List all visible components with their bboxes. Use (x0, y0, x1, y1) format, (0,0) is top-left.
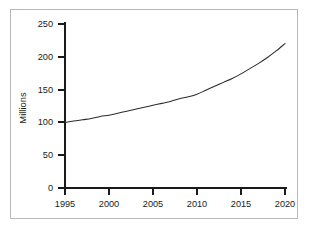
x-axis-tick-labels: 1995 2000 2005 2010 2015 2020 (55, 199, 295, 209)
x-axis-ticks (65, 188, 285, 195)
y-axis-ticks (58, 24, 65, 188)
y-tick-label-100: 100 (38, 117, 53, 127)
x-tick-label-2005: 2005 (143, 199, 163, 209)
line-chart: 0 50 100 150 200 250 Millions 1995 (0, 0, 311, 229)
data-series-line (65, 44, 285, 123)
y-tick-label-0: 0 (48, 183, 53, 193)
x-tick-label-2020: 2020 (275, 199, 295, 209)
x-tick-label-2015: 2015 (231, 199, 251, 209)
x-tick-label-1995: 1995 (55, 199, 75, 209)
x-axis: 1995 2000 2005 2010 2015 2020 (55, 188, 295, 209)
y-axis-title: Millions (17, 92, 28, 124)
y-tick-label-150: 150 (38, 85, 53, 95)
figure-canvas: 0 50 100 150 200 250 Millions 1995 (0, 0, 311, 229)
x-tick-label-2010: 2010 (187, 199, 207, 209)
y-tick-label-250: 250 (38, 19, 53, 29)
y-tick-label-50: 50 (43, 150, 53, 160)
y-axis: 0 50 100 150 200 250 Millions (17, 19, 65, 193)
y-axis-tick-labels: 0 50 100 150 200 250 (38, 19, 53, 193)
y-tick-label-200: 200 (38, 52, 53, 62)
x-tick-label-2000: 2000 (99, 199, 119, 209)
